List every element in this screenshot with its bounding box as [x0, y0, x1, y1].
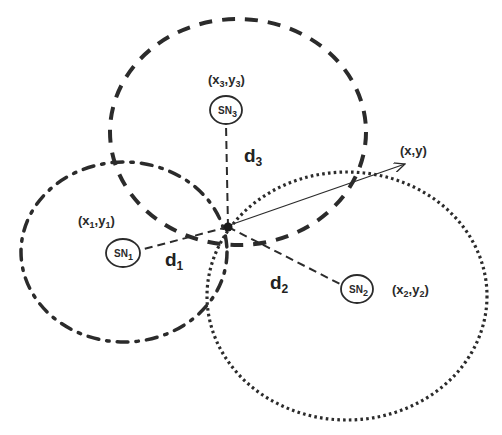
sensor-node-sn1: SN1 [106, 239, 140, 267]
d3-label: d3 [244, 145, 263, 169]
trilateration-diagram: SN3 SN1 SN2 (x3,y3) (x1,y1) (x2,y2) (x,y… [0, 0, 502, 435]
target-direction-arrow [230, 164, 405, 225]
sensor-node-sn3: SN3 [210, 96, 242, 124]
intersection-point [224, 223, 233, 232]
d1-label: d1 [165, 249, 184, 273]
sensor-node-sn2: SN2 [341, 275, 373, 303]
sn2-coord-label: (x2,y2) [392, 282, 429, 299]
sn3-coord-label: (x3,y3) [208, 72, 245, 89]
d1-distance-line [140, 227, 228, 250]
sn1-coord-label: (x1,y1) [78, 213, 115, 230]
d2-label: d2 [270, 272, 289, 296]
d3-distance-line [226, 124, 228, 227]
sn3-range-circle [110, 19, 366, 245]
target-coord-label: (x,y) [400, 143, 427, 158]
